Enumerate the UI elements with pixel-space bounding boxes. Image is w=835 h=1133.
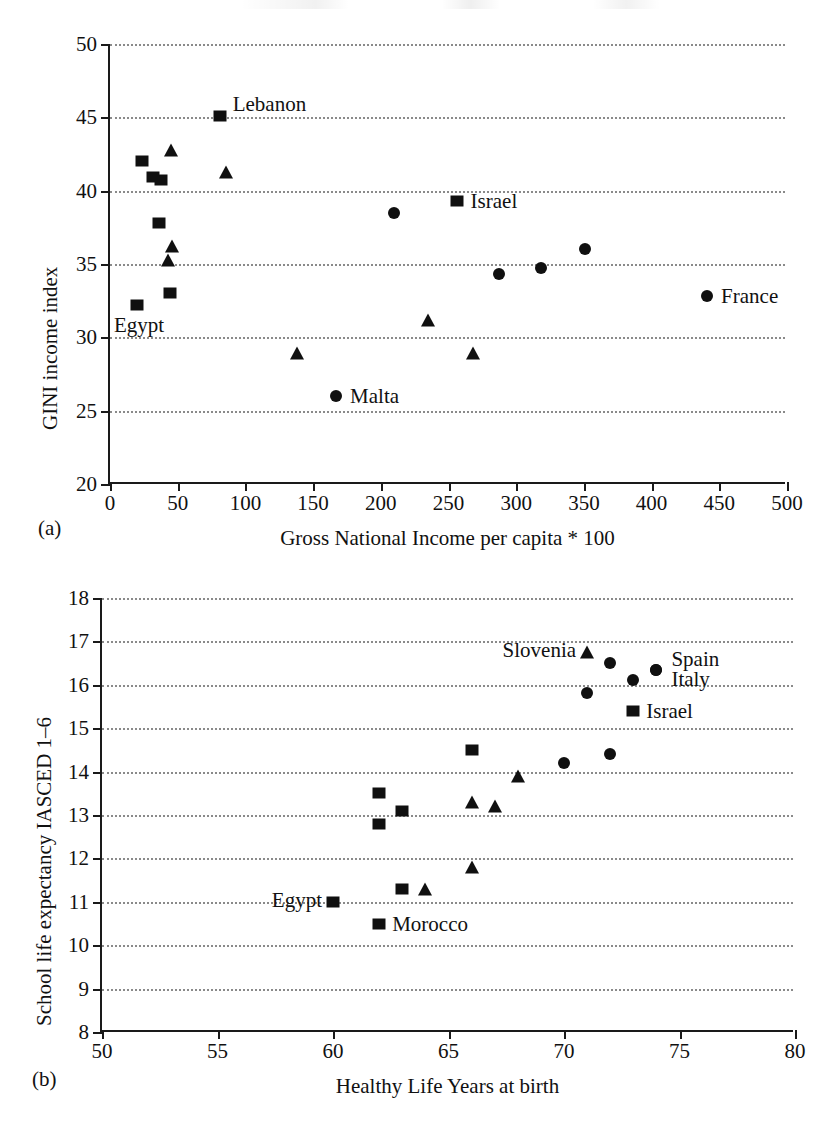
y-axis-tick <box>101 117 110 119</box>
data-point-square <box>373 918 386 929</box>
y-axis-tick-label: 16 <box>68 674 89 695</box>
gridline-horizontal <box>102 989 793 991</box>
figure-two-panel-scatter: 2025303540455005010015020025030035040045… <box>0 0 835 1133</box>
data-point-label: Israel <box>646 700 693 721</box>
y-axis-tick-label: 35 <box>76 254 97 275</box>
y-axis-tick <box>101 411 110 413</box>
panel-label-b: (b) <box>32 1067 57 1092</box>
x-axis-tick-label: 80 <box>785 1041 806 1062</box>
y-axis-tick <box>101 337 110 339</box>
y-axis-tick-label: 50 <box>76 34 97 55</box>
data-point-circle <box>493 268 505 280</box>
x-axis-tick <box>110 482 112 491</box>
data-point-square <box>396 805 409 816</box>
data-point-circle <box>604 657 616 669</box>
x-axis-tick-label: 300 <box>500 493 532 514</box>
y-axis-tick <box>101 484 110 486</box>
panel-b: 8910111213141516171850556065707580Health… <box>0 560 835 1133</box>
data-point-circle <box>579 243 591 255</box>
gridline-horizontal <box>102 728 793 730</box>
data-point-label: Lebanon <box>233 93 306 114</box>
panel-a: 2025303540455005010015020025030035040045… <box>0 0 835 560</box>
data-point-square <box>213 110 226 121</box>
y-axis-tick <box>93 989 102 991</box>
y-axis-tick <box>93 945 102 947</box>
y-axis-tick-label: 12 <box>68 848 89 869</box>
x-axis-tick <box>584 482 586 491</box>
x-axis-tick <box>680 1030 682 1039</box>
panel-label-a: (a) <box>38 516 61 541</box>
data-point-triangle <box>465 795 479 808</box>
data-point-triangle <box>161 253 175 266</box>
x-axis-tick-label: 65 <box>438 1041 459 1062</box>
y-axis-tick-label: 25 <box>76 400 97 421</box>
x-axis-tick <box>787 482 789 491</box>
data-point-circle <box>650 664 662 676</box>
data-point-triangle <box>290 347 304 360</box>
x-axis-tick <box>795 1030 797 1039</box>
data-point-square <box>373 818 386 829</box>
y-axis-tick <box>93 598 102 600</box>
x-axis-tick <box>719 482 721 491</box>
x-axis-title: Gross National Income per capita * 100 <box>110 526 785 551</box>
data-point-label: Egypt <box>114 315 164 336</box>
y-axis-tick-label: 40 <box>76 180 97 201</box>
data-point-square <box>373 788 386 799</box>
x-axis-tick-label: 250 <box>433 493 465 514</box>
data-point-square <box>131 300 144 311</box>
data-point-label: Egypt <box>272 889 322 910</box>
x-axis-tick-label: 500 <box>771 493 803 514</box>
y-axis-tick-label: 30 <box>76 327 97 348</box>
y-axis-tick-label: 14 <box>68 761 89 782</box>
data-point-label: Italy <box>671 668 709 689</box>
y-axis-tick <box>93 902 102 904</box>
gridline-horizontal <box>110 117 785 119</box>
y-axis-tick <box>101 191 110 193</box>
data-point-triangle <box>488 800 502 813</box>
data-point-circle <box>330 390 342 402</box>
x-axis-tick <box>333 1030 335 1039</box>
y-axis-tick-label: 20 <box>76 474 97 495</box>
y-axis-title-b: School life expectancy IASCED 1–6 <box>32 717 57 1026</box>
y-axis-tick <box>93 728 102 730</box>
data-point-square <box>450 195 463 206</box>
x-axis-tick <box>178 482 180 491</box>
data-point-square <box>136 156 149 167</box>
data-point-triangle <box>164 143 178 156</box>
data-point-label: Malta <box>350 386 399 407</box>
x-axis-tick-label: 75 <box>669 1041 690 1062</box>
data-point-triangle <box>466 347 480 360</box>
y-axis-tick <box>93 641 102 643</box>
y-axis-tick-label: 13 <box>68 805 89 826</box>
data-point-square <box>327 896 340 907</box>
gridline-horizontal <box>102 815 793 817</box>
x-axis-tick-label: 350 <box>568 493 600 514</box>
gridline-horizontal <box>102 641 793 643</box>
data-point-label: Morocco <box>392 913 468 934</box>
data-point-square <box>152 217 165 228</box>
y-axis-tick-label: 15 <box>68 718 89 739</box>
x-axis-tick <box>245 482 247 491</box>
x-axis-tick <box>449 1030 451 1039</box>
data-point-square <box>396 883 409 894</box>
data-point-triangle <box>511 769 525 782</box>
data-point-label: Israel <box>471 190 518 211</box>
x-axis-tick <box>381 482 383 491</box>
data-point-square <box>465 744 478 755</box>
x-axis-tick-label: 150 <box>297 493 329 514</box>
data-point-square <box>163 288 176 299</box>
gridline-horizontal <box>102 772 793 774</box>
y-axis-title-a: GINI income index <box>38 267 63 430</box>
y-axis-tick <box>93 772 102 774</box>
data-point-triangle <box>580 646 594 659</box>
data-point-triangle <box>465 861 479 874</box>
x-axis-tick-label: 450 <box>704 493 736 514</box>
gridline-horizontal <box>110 191 785 193</box>
data-point-label: Slovenia <box>503 640 577 661</box>
gridline-horizontal <box>110 337 785 339</box>
data-point-circle <box>701 290 713 302</box>
data-point-circle <box>581 687 593 699</box>
data-point-square <box>627 705 640 716</box>
x-axis-tick <box>449 482 451 491</box>
x-axis-tick-label: 100 <box>230 493 262 514</box>
